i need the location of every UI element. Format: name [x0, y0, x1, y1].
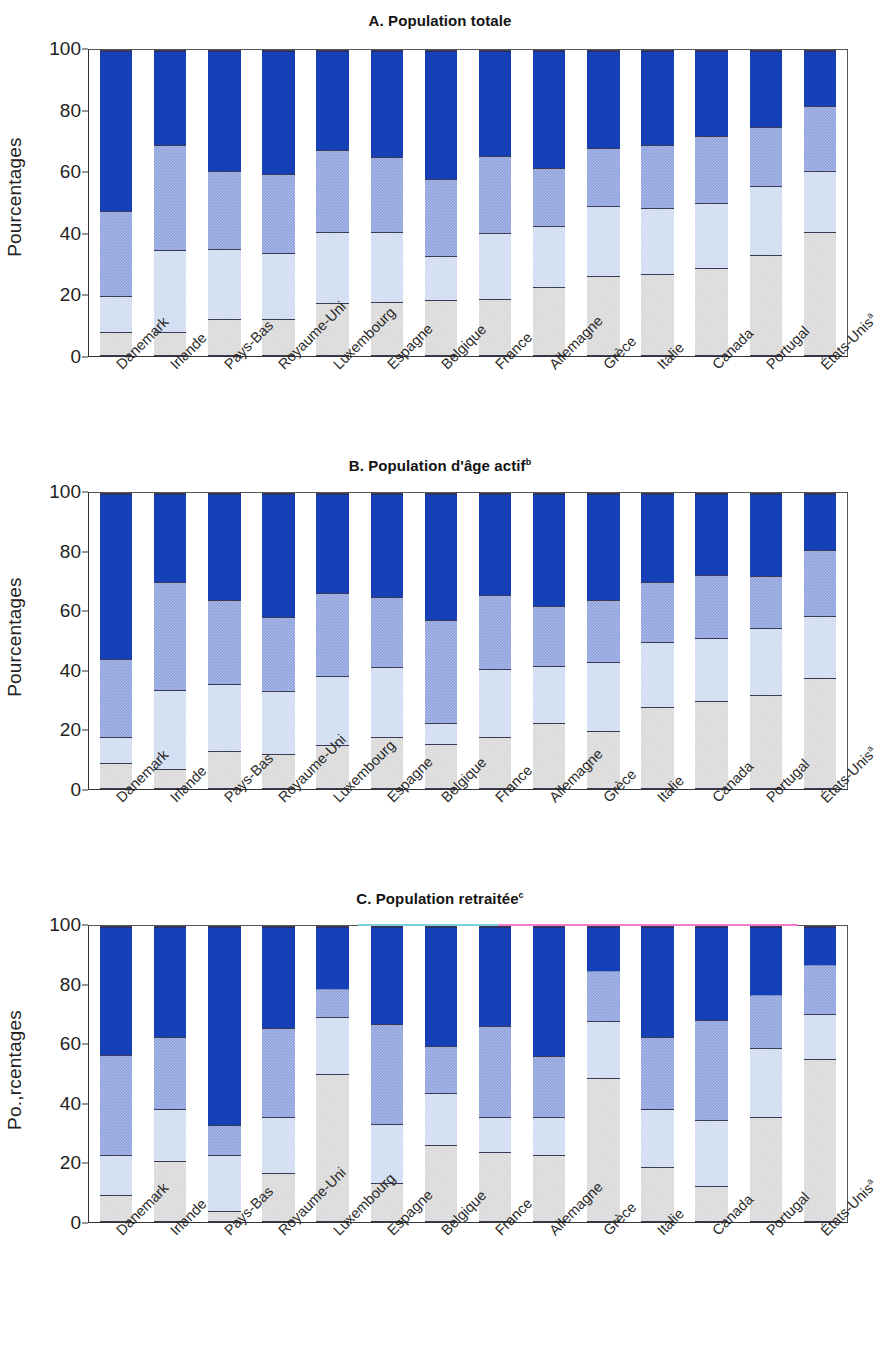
panel-b-plot: DanemarkIrlandePays-BasRoyaume-UniLuxemb…: [88, 492, 848, 790]
bar-segment-3: [425, 1046, 457, 1093]
y-tick-mark: [82, 1044, 88, 1045]
stacked-bar[interactable]: [641, 493, 673, 789]
bar-segment-4: [479, 494, 511, 595]
stacked-bar[interactable]: [695, 926, 727, 1222]
stacked-bar[interactable]: [479, 50, 511, 356]
stacked-bar[interactable]: [695, 493, 727, 789]
bar-segment-4: [371, 51, 403, 157]
panel-b: B. Population d'âge actifb Pourcentages …: [0, 455, 880, 890]
stacked-bar[interactable]: [262, 50, 294, 356]
x-tick-label-slot: Danemark: [89, 356, 143, 428]
stacked-bar[interactable]: [208, 50, 240, 356]
x-tick-label-slot: Pays-Bas: [197, 789, 251, 861]
y-tick-mark: [82, 1163, 88, 1164]
bar-segment-4: [804, 494, 836, 550]
panel-c-y-axis-label: Po.,rcentages: [2, 915, 28, 1225]
x-tick-label-slot: Italie: [630, 356, 684, 428]
stacked-bar[interactable]: [695, 50, 727, 356]
x-tick-label-slot: Canada: [685, 356, 739, 428]
x-tick-label-slot: Pays-Bas: [197, 356, 251, 428]
bar-slot: [143, 50, 197, 356]
bar-segment-3: [262, 617, 294, 691]
x-tick-label-slot: Danemark: [89, 1222, 143, 1294]
bar-segment-3: [587, 971, 619, 1021]
panel-a-plot: DanemarkIrlandePays-BasRoyaume-UniLuxemb…: [88, 49, 848, 357]
y-tick-mark: [82, 233, 88, 234]
panel-b-title-text: B. Population d'âge actif: [349, 457, 526, 474]
stacked-bar[interactable]: [479, 493, 511, 789]
stacked-bar[interactable]: [479, 926, 511, 1222]
stacked-bar[interactable]: [100, 926, 132, 1222]
bar-segment-4: [425, 927, 457, 1046]
stacked-bar[interactable]: [587, 926, 619, 1222]
bar-segment-2: [208, 1155, 240, 1211]
panel-b-y-axis-label: Pourcentages: [2, 482, 28, 792]
stacked-bar[interactable]: [154, 50, 186, 356]
bar-segment-2: [750, 1048, 782, 1117]
bar-slot: [414, 926, 468, 1222]
bar-segment-3: [316, 989, 348, 1017]
bar-segment-2: [425, 723, 457, 744]
bar-segment-2: [316, 232, 348, 303]
y-tick-mark: [82, 49, 88, 50]
stacked-bar[interactable]: [425, 926, 457, 1222]
stacked-bar[interactable]: [425, 493, 457, 789]
bar-slot: [468, 926, 522, 1222]
bar-segment-4: [695, 51, 727, 136]
bar-slot: [89, 493, 143, 789]
panel-a-bars: [89, 50, 847, 356]
stacked-bar[interactable]: [533, 493, 565, 789]
bar-segment-4: [804, 927, 836, 965]
panel-b-title: B. Population d'âge actifb: [0, 455, 880, 474]
stacked-bar[interactable]: [208, 926, 240, 1222]
stacked-bar[interactable]: [587, 493, 619, 789]
y-tick-mark: [82, 670, 88, 671]
stacked-bar[interactable]: [533, 50, 565, 356]
bar-segment-3: [316, 150, 348, 232]
stacked-bar[interactable]: [750, 926, 782, 1222]
stacked-bar[interactable]: [154, 493, 186, 789]
stacked-bar[interactable]: [641, 50, 673, 356]
stacked-bar[interactable]: [587, 50, 619, 356]
bar-segment-3: [262, 174, 294, 253]
stacked-bar[interactable]: [641, 926, 673, 1222]
bar-segment-4: [425, 494, 457, 620]
bar-segment-3: [750, 576, 782, 627]
bar-segment-1: [804, 678, 836, 788]
bar-segment-1: [750, 255, 782, 355]
bar-segment-2: [587, 206, 619, 276]
bar-segment-2: [695, 1120, 727, 1186]
bar-slot: [793, 493, 847, 789]
stacked-bar[interactable]: [804, 926, 836, 1222]
stacked-bar[interactable]: [425, 50, 457, 356]
y-tick-mark: [82, 172, 88, 173]
stacked-bar[interactable]: [208, 493, 240, 789]
bar-segment-4: [100, 51, 132, 211]
bar-segment-2: [533, 1117, 565, 1155]
bar-segment-3: [695, 136, 727, 203]
stacked-bar[interactable]: [533, 926, 565, 1222]
stacked-bar[interactable]: [262, 493, 294, 789]
stacked-bar[interactable]: [804, 493, 836, 789]
bar-slot: [522, 926, 576, 1222]
bar-slot: [197, 493, 251, 789]
panel-b-title-footnote: b: [526, 457, 532, 467]
panel-c: C. Population retraitéec Po.,rcentages D…: [0, 890, 880, 1320]
stacked-bar[interactable]: [154, 926, 186, 1222]
stacked-bar[interactable]: [262, 926, 294, 1222]
bar-segment-2: [641, 1109, 673, 1166]
bar-segment-2: [208, 684, 240, 752]
stacked-bar[interactable]: [750, 493, 782, 789]
bar-segment-3: [587, 148, 619, 206]
panel-c-bars: [89, 926, 847, 1222]
stacked-bar[interactable]: [100, 493, 132, 789]
bar-segment-4: [479, 927, 511, 1025]
stacked-bar[interactable]: [100, 50, 132, 356]
stacked-bar[interactable]: [804, 50, 836, 356]
bar-segment-3: [371, 597, 403, 668]
stacked-bar[interactable]: [750, 50, 782, 356]
bar-slot: [739, 926, 793, 1222]
bar-segment-3: [533, 606, 565, 666]
bar-slot: [197, 926, 251, 1222]
bar-slot: [630, 50, 684, 356]
